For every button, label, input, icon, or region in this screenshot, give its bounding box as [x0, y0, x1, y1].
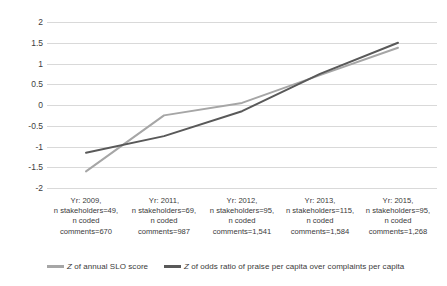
legend-color-swatch [47, 265, 64, 267]
x-axis-category-label: Yr: 2012,n stakeholders=95,n codedcommen… [203, 196, 281, 248]
x-axis-category-line: n coded [360, 216, 436, 226]
y-axis-tick-label: 1 [17, 60, 43, 68]
x-axis-category-line: comments=987 [126, 227, 202, 237]
y-axis-tick-label: 0 [17, 101, 43, 109]
x-axis-category-line: comments=1,541 [204, 227, 280, 237]
y-axis-tick-label: 1.5 [17, 39, 43, 47]
x-axis: Yr: 2009,n stakeholders=49,n codedcommen… [47, 196, 437, 248]
x-axis-category-line: comments=1,584 [282, 227, 358, 237]
legend-label: Z of odds ratio of praise per capita ove… [184, 262, 404, 271]
x-axis-category-line: Yr: 2012, [204, 196, 280, 206]
y-axis-tick-label: -1 [17, 143, 43, 151]
series-line-2 [86, 43, 398, 153]
x-axis-category-line: n stakeholders=95, [204, 206, 280, 216]
x-axis-category-line: n stakeholders=115, [282, 206, 358, 216]
x-axis-category-line: n coded [48, 216, 124, 226]
legend-label: Z of annual SLO score [67, 262, 148, 271]
series-line-1 [86, 48, 398, 172]
line-chart: 21.510.50-0.5-1-1.5-2 Yr: 2009,n stakeho… [0, 0, 447, 286]
x-axis-category-line: n coded [282, 216, 358, 226]
x-axis-category-line: Yr: 2009, [48, 196, 124, 206]
y-axis: 21.510.50-0.5-1-1.5-2 [10, 22, 43, 188]
y-axis-tick-label: 0.5 [17, 80, 43, 88]
legend-item-1[interactable]: Z of annual SLO score [47, 262, 148, 271]
chart-legend: Z of annual SLO scoreZ of odds ratio of … [47, 262, 447, 271]
x-axis-category-line: comments=670 [48, 227, 124, 237]
y-axis-tick-label: 2 [17, 18, 43, 26]
x-axis-category-line: n stakeholders=69, [126, 206, 202, 216]
legend-item-2[interactable]: Z of odds ratio of praise per capita ove… [164, 262, 404, 271]
series-lines [47, 22, 437, 188]
x-axis-category-label: Yr: 2011,n stakeholders=69,n codedcommen… [125, 196, 203, 248]
plot-area [47, 22, 437, 188]
gridline [47, 188, 437, 189]
legend-color-swatch [164, 265, 181, 267]
y-axis-tick-label: -2 [17, 184, 43, 192]
x-axis-category-line: Yr: 2013, [282, 196, 358, 206]
x-axis-category-line: n coded [204, 216, 280, 226]
x-axis-category-label: Yr: 2013,n stakeholders=115,n codedcomme… [281, 196, 359, 248]
y-axis-tick-label: -1.5 [17, 163, 43, 171]
x-axis-category-label: Yr: 2015,n stakeholders=95,n codedcommen… [359, 196, 437, 248]
x-axis-category-line: Yr: 2011, [126, 196, 202, 206]
x-axis-category-line: n stakeholders=95, [360, 206, 436, 216]
x-axis-category-line: comments=1,268 [360, 227, 436, 237]
x-axis-category-line: Yr: 2015, [360, 196, 436, 206]
x-axis-category-line: n coded [126, 216, 202, 226]
y-axis-tick-label: -0.5 [17, 122, 43, 130]
x-axis-category-label: Yr: 2009,n stakeholders=49,n codedcommen… [47, 196, 125, 248]
x-axis-category-line: n stakeholders=49, [48, 206, 124, 216]
